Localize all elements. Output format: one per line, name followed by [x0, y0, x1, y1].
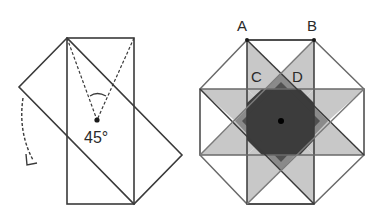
- vertex-a-dot: [245, 38, 249, 42]
- dashed-line-left: [67, 38, 97, 120]
- angle-arc: [90, 94, 106, 97]
- upright-rectangle: [67, 38, 134, 204]
- rotated-rectangle: [19, 38, 182, 204]
- arrow-head-icon: [26, 154, 37, 165]
- dashed-line-right: [97, 38, 134, 120]
- diagram-canvas: 45° A B C D: [0, 0, 388, 219]
- label-d: D: [292, 68, 303, 85]
- label-b: B: [307, 17, 317, 34]
- right-figure: [200, 38, 364, 204]
- center-dot: [278, 118, 284, 124]
- vertex-b-dot: [312, 38, 316, 42]
- pivot-dot: [94, 117, 99, 122]
- label-a: A: [237, 17, 247, 34]
- left-figure: [19, 38, 182, 204]
- rotation-arrow-icon: [22, 98, 33, 160]
- label-c: C: [251, 68, 262, 85]
- angle-label: 45°: [84, 129, 108, 146]
